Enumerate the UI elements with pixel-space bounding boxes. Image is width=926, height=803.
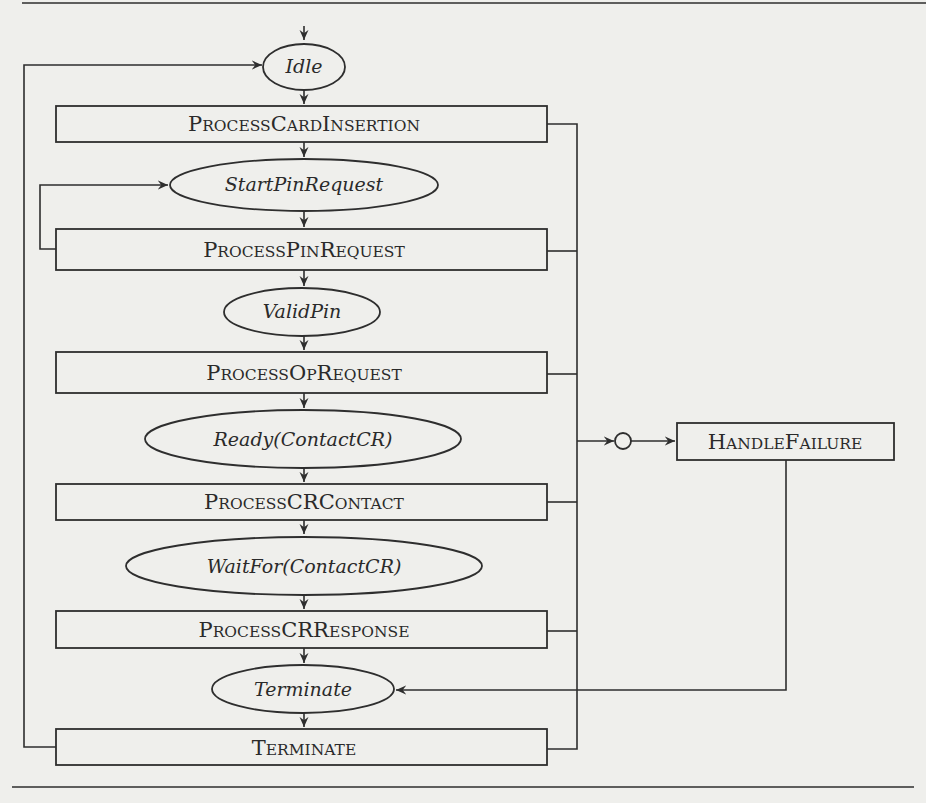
state-idle[interactable]: Idle xyxy=(263,44,345,90)
state-terminate-label: Terminate xyxy=(254,678,352,700)
state-valid-pin-label: ValidPin xyxy=(263,300,342,322)
state-ready-contact-cr[interactable]: Ready(ContactCR) xyxy=(145,410,461,468)
process-cr-response-label: PROCESSCRRESPONSE xyxy=(199,618,410,642)
state-ready-contact-cr-label: Ready(ContactCR) xyxy=(213,428,393,450)
arrow-failure-to-terminate xyxy=(396,460,786,690)
state-diagram: Idle PROCESSCARDINSERTION StartPinReques… xyxy=(0,0,926,803)
process-terminate-label: TERMINATE xyxy=(252,736,357,760)
process-pin-request[interactable]: PROCESSPINREQUEST xyxy=(56,229,547,270)
retry-pin-loop xyxy=(40,185,168,249)
process-pin-request-label: PROCESSPINREQUEST xyxy=(203,238,405,262)
state-waitfor-contact-cr-label: WaitFor(ContactCR) xyxy=(207,555,402,577)
process-op-request-label: PROCESSOPREQUEST xyxy=(206,361,402,385)
loop-back-to-idle xyxy=(24,65,262,747)
state-terminate[interactable]: Terminate xyxy=(212,665,394,713)
process-handle-failure-label: HANDLEFAILURE xyxy=(708,430,863,454)
state-start-pin-request[interactable]: StartPinRequest xyxy=(170,159,438,211)
process-op-request[interactable]: PROCESSOPREQUEST xyxy=(56,352,547,393)
process-cr-contact[interactable]: PROCESSCRCONTACT xyxy=(56,484,547,520)
state-waitfor-contact-cr[interactable]: WaitFor(ContactCR) xyxy=(126,537,482,595)
failure-bus xyxy=(547,124,577,749)
process-card-insertion[interactable]: PROCESSCARDINSERTION xyxy=(56,106,547,142)
process-cr-contact-label: PROCESSCRCONTACT xyxy=(204,490,404,514)
state-idle-label: Idle xyxy=(285,55,323,77)
state-start-pin-request-label: StartPinRequest xyxy=(225,173,384,195)
state-valid-pin[interactable]: ValidPin xyxy=(224,288,380,336)
process-cr-response[interactable]: PROCESSCRRESPONSE xyxy=(56,611,547,648)
process-terminate[interactable]: TERMINATE xyxy=(56,729,547,765)
process-handle-failure[interactable]: HANDLEFAILURE xyxy=(677,423,894,460)
process-card-insertion-label: PROCESSCARDINSERTION xyxy=(188,112,420,136)
junction-circle xyxy=(615,433,631,449)
